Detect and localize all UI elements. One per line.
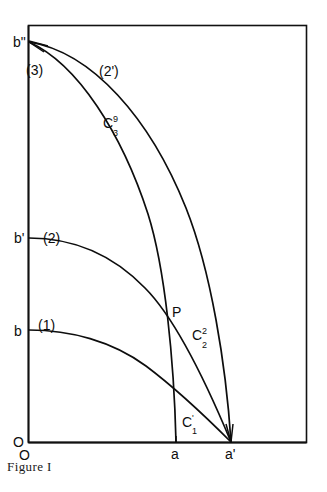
svg-text:1: 1 [192, 426, 197, 436]
x-axis-label-a: a [171, 446, 179, 462]
x-axis-label-a-prime: a' [225, 446, 235, 462]
y-axis-label-b-double-prime: b" [13, 34, 26, 50]
curve-tag-2-prime: (2') [99, 63, 119, 79]
figure-caption: Figure I [7, 459, 52, 475]
svg-text:9: 9 [113, 114, 118, 124]
svg-text:': ' [192, 413, 194, 423]
y-axis-label-b-prime: b' [14, 230, 24, 246]
curve-tag-1: (1) [38, 317, 55, 333]
svg-text:2: 2 [202, 340, 207, 350]
svg-text:C: C [103, 115, 113, 131]
curve-tag-2: (2) [43, 230, 60, 246]
svg-text:C: C [182, 414, 192, 430]
svg-text:C: C [192, 327, 202, 343]
point-label-p: P [172, 304, 181, 320]
plot-frame [29, 26, 307, 443]
svg-text:2: 2 [202, 326, 207, 336]
y-axis-label-b: b [14, 323, 22, 339]
svg-text:3: 3 [113, 128, 118, 138]
figure-container: b" b' b O O a a' (3) (2') (2) (1) C 9 3 … [0, 0, 327, 492]
figure-canvas: b" b' b O O a a' (3) (2') (2) (1) C 9 3 … [0, 0, 327, 492]
curve-tag-3: (3) [26, 62, 43, 78]
